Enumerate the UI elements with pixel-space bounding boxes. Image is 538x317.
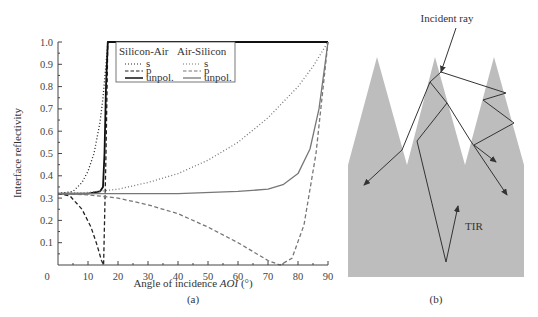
y-tick-label: 0.8 [40, 81, 53, 92]
x-tick-label: 90 [323, 271, 334, 282]
y-axis-title: Interface reflectivity [11, 107, 23, 198]
legend-group2-title: Air-Silicon [177, 45, 227, 57]
x-tick-label: 0 [44, 271, 49, 282]
y-tick-label: 0.6 [40, 126, 53, 137]
y-tick-label: 0.1 [40, 237, 53, 248]
x-tick-label: 80 [293, 271, 304, 282]
caption-b: (b) [430, 293, 443, 306]
legend-group1-title: Silicon-Air [119, 45, 169, 57]
caption-a: (a) [187, 293, 200, 306]
texture-diagram: Incident ray TIR [348, 12, 524, 277]
y-tick-label: 0.4 [40, 170, 54, 181]
y-tick-label: 0.5 [40, 148, 53, 159]
legend-label-as-unpol: unpol. [204, 71, 232, 83]
reflectivity-chart: 01020304050607080900.10.20.30.40.50.60.7… [11, 37, 333, 291]
y-tick-label: 0.3 [40, 193, 53, 204]
tir-label: TIR [465, 220, 483, 232]
y-tick-label: 0.9 [40, 59, 53, 70]
legend-label-sa-unpol: unpol. [146, 71, 174, 83]
y-tick-label: 1.0 [40, 37, 53, 48]
y-tick-label: 0.7 [40, 103, 53, 114]
figure-canvas: 01020304050607080900.10.20.30.40.50.60.7… [0, 0, 538, 317]
legend: Silicon-Air Air-Silicon s p unpol. s p u… [116, 42, 235, 83]
y-tick-label: 0.2 [40, 215, 53, 226]
incident-ray-label: Incident ray [421, 12, 474, 24]
x-axis-title: Angle of incidence AOI (°) [133, 277, 253, 290]
incident-ray-arrow [441, 28, 456, 72]
x-tick-label: 20 [113, 271, 124, 282]
x-tick-label: 70 [263, 271, 274, 282]
x-tick-label: 10 [83, 271, 94, 282]
